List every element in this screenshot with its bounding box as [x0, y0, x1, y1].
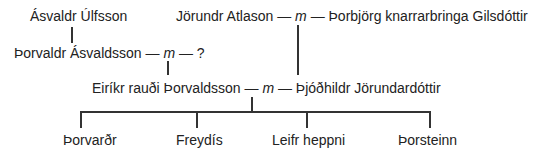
child-freydis: Freydís [176, 132, 223, 148]
couple-jorundr-thorbjorg: Jörundr Atlason — m — Þorbjörg knarrarbr… [176, 8, 528, 24]
child-thorsteinn: Þorsteinn [398, 132, 457, 148]
person-asvaldr: Ásvaldr Úlfsson [30, 8, 127, 24]
child-drop-line [196, 111, 198, 128]
descent-line [251, 97, 253, 112]
descent-line [71, 27, 73, 43]
sibling-line [80, 111, 431, 113]
person-jorundr: Jörundr Atlason [176, 8, 273, 24]
dash: — [311, 8, 325, 24]
couple-thorvaldr: Þorvaldr Ásvaldsson — m — ? [14, 45, 205, 61]
dash: — [245, 80, 259, 96]
couple-eirikr-thjodhildr: Eiríkr rauði Þorvaldsson — m — Þjóðhildr… [92, 80, 441, 96]
descent-line [297, 25, 299, 75]
marriage-label: m [163, 45, 175, 61]
person-eirikr: Eiríkr rauði Þorvaldsson [92, 80, 241, 96]
child-thorvardr: Þorvarðr [63, 132, 117, 148]
dash: — [277, 8, 291, 24]
child-drop-line [80, 111, 82, 128]
person-thorbjorg: Þorbjörg knarrarbringa Gilsdóttir [329, 8, 528, 24]
person-unknown-wife: ? [197, 45, 205, 61]
person-thjodhildr: Þjóðhildr Jörundardóttir [296, 80, 441, 96]
child-leifr: Leifr heppni [272, 132, 345, 148]
marriage-label: m [262, 80, 274, 96]
person-thorvaldr: Þorvaldr Ásvaldsson [14, 45, 142, 61]
dash: — [278, 80, 292, 96]
child-drop-line [429, 111, 431, 128]
child-drop-line [306, 111, 308, 128]
dash: — [179, 45, 193, 61]
dash: — [146, 45, 160, 61]
descent-line [167, 61, 169, 75]
marriage-label: m [295, 8, 307, 24]
